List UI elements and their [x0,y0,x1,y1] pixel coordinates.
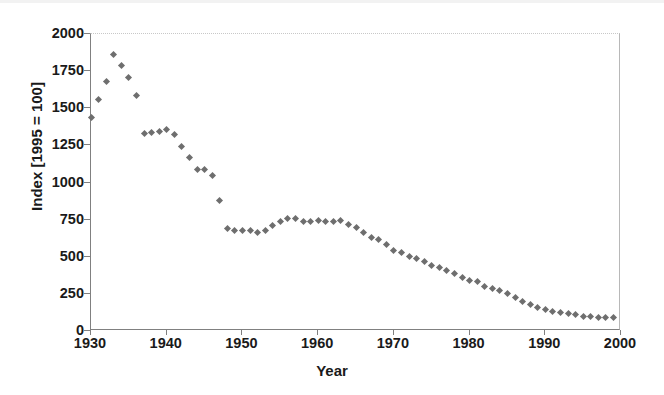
data-point [549,308,556,315]
data-point [504,290,511,297]
data-point [436,264,443,271]
x-tick-label: 1950 [213,336,269,351]
data-point [269,222,276,229]
data-point [564,310,571,317]
data-point [125,74,132,81]
data-point [163,126,170,133]
data-point [602,314,609,321]
data-point [277,218,284,225]
data-point [216,197,223,204]
x-tick-mark [90,330,91,335]
data-point [557,309,564,316]
data-point [398,249,405,256]
x-tick-mark [166,330,167,335]
data-point [534,304,541,311]
data-point [140,130,147,137]
data-point [224,225,231,232]
x-tick-label: 1980 [441,336,497,351]
data-point [118,62,125,69]
x-tick-label: 1960 [289,336,345,351]
data-point [345,221,352,228]
data-point [201,166,208,173]
data-point [322,218,329,225]
x-tick-mark [620,330,621,335]
data-point [209,172,216,179]
data-point [178,143,185,150]
data-point [368,234,375,241]
data-point [587,313,594,320]
data-point [186,154,193,161]
data-point [246,227,253,234]
data-point [542,306,549,313]
x-tick-mark [241,330,242,335]
data-point [383,241,390,248]
x-tick-label: 1940 [138,336,194,351]
data-point [481,283,488,290]
data-point [489,285,496,292]
data-point [299,218,306,225]
data-point [390,247,397,254]
x-tick-label: 1930 [62,336,118,351]
data-point [519,298,526,305]
y-axis-title: Index [1995 = 100] [28,17,45,277]
data-point [451,270,458,277]
scatter-chart: 200017501500125010007505002500 Index [19… [0,0,664,395]
data-point [428,262,435,269]
data-point [595,314,602,321]
x-tick-mark [544,330,545,335]
data-point [474,278,481,285]
plot-area [90,33,620,330]
x-tick-label: 2000 [592,336,648,351]
data-point [292,215,299,222]
data-point [193,166,200,173]
x-tick-label: 1970 [365,336,421,351]
data-points-layer [91,34,619,329]
data-point [405,252,412,259]
data-point [254,229,261,236]
data-point [511,294,518,301]
data-point [572,311,579,318]
data-point [156,128,163,135]
data-point [466,277,473,284]
data-point [171,131,178,138]
data-point [133,92,140,99]
x-tick-mark [469,330,470,335]
data-point [262,226,269,233]
y-tick-label: 250 [22,286,84,301]
data-point [610,314,617,321]
data-point [315,217,322,224]
data-point [527,301,534,308]
data-point [330,218,337,225]
data-point [307,218,314,225]
data-point [231,226,238,233]
x-tick-mark [393,330,394,335]
data-point [103,78,110,85]
x-tick-label: 1990 [516,336,572,351]
data-point [375,236,382,243]
data-point [239,226,246,233]
data-point [360,229,367,236]
data-point [421,258,428,265]
data-point [352,224,359,231]
data-point [337,217,344,224]
data-point [284,215,291,222]
data-point [148,128,155,135]
data-point [95,96,102,103]
data-point [110,51,117,58]
data-point [496,287,503,294]
x-axis-title: Year [0,362,664,379]
data-point [443,267,450,274]
x-tick-mark [317,330,318,335]
data-point [413,255,420,262]
